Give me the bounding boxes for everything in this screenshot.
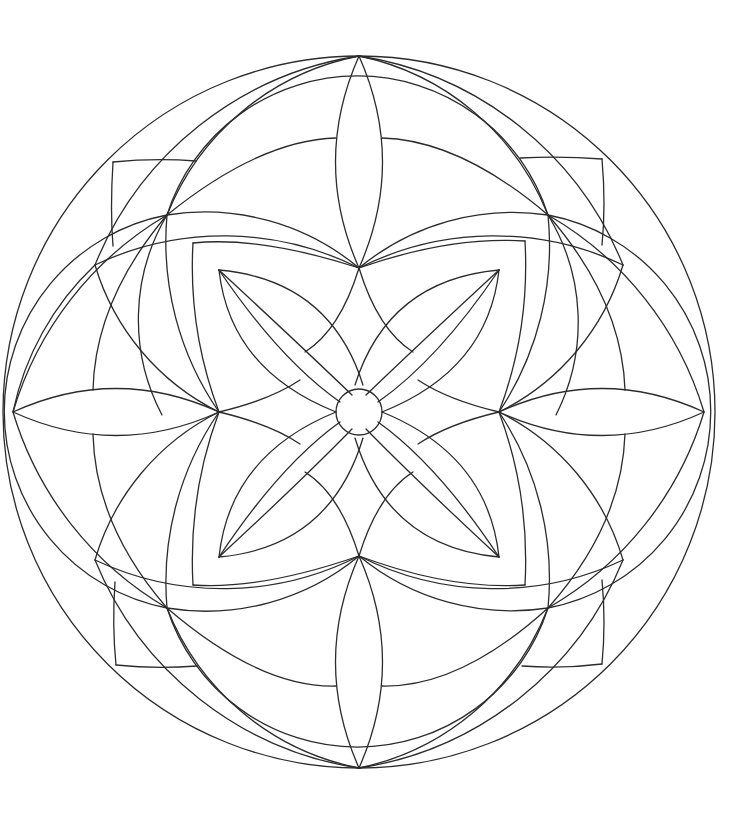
inner-petals — [219, 268, 499, 557]
lens-right — [499, 389, 704, 436]
corner-curved-squares — [112, 157, 605, 667]
large-overlapping-arcs — [4, 56, 710, 768]
mandala-drawing — [0, 0, 744, 823]
lens-top — [336, 56, 383, 268]
center-circle — [336, 389, 382, 435]
outer-circle — [3, 56, 715, 768]
lens-left — [13, 389, 219, 436]
lens-bottom — [336, 556, 383, 768]
mandala-canvas — [0, 0, 744, 823]
cardinal-lens-petals — [13, 56, 704, 768]
